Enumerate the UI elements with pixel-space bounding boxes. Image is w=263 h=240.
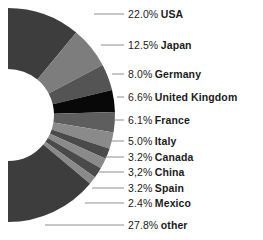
label-category: USA — [161, 8, 183, 20]
label-percent: 8.0% — [128, 68, 152, 80]
donut-slices — [8, 8, 115, 222]
label-category: Spain — [155, 182, 184, 194]
chart-label-france: 6.1%France — [128, 115, 190, 126]
label-percent: 3,2% — [128, 166, 152, 178]
label-percent: 6.6% — [128, 91, 152, 103]
label-percent: 27.8% — [128, 219, 158, 231]
chart-label-other: 27.8%other — [128, 220, 188, 231]
label-percent: 5.0% — [128, 135, 152, 147]
label-percent: 22.0% — [128, 8, 158, 20]
label-percent: 3.2% — [128, 182, 152, 194]
label-percent: 12.5% — [128, 39, 158, 51]
chart-label-china: 3,2%China — [128, 167, 185, 178]
label-category: other — [161, 219, 188, 231]
label-category: France — [155, 114, 190, 126]
label-percent: 2.4% — [128, 197, 152, 209]
label-category: Japan — [161, 39, 192, 51]
chart-label-germany: 8.0%Germany — [128, 69, 201, 80]
label-category: Italy — [155, 135, 177, 147]
label-category: United Kingdom — [155, 91, 237, 103]
label-category: China — [155, 166, 185, 178]
chart-label-italy: 5.0%Italy — [128, 136, 176, 147]
chart-label-usa: 22.0%USA — [128, 9, 183, 20]
label-category: Mexico — [155, 197, 191, 209]
label-percent: 6.1% — [128, 114, 152, 126]
chart-label-spain: 3.2%Spain — [128, 183, 184, 194]
label-percent: 3.2% — [128, 151, 152, 163]
donut-chart: 22.0%USA12.5%Japan8.0%Germany6.6%United … — [0, 0, 263, 240]
chart-label-united-kingdom: 6.6%United Kingdom — [128, 92, 237, 103]
chart-label-japan: 12.5%Japan — [128, 40, 192, 51]
label-category: Germany — [155, 68, 201, 80]
chart-label-mexico: 2.4%Mexico — [128, 198, 191, 209]
label-category: Canada — [155, 151, 194, 163]
chart-label-canada: 3.2%Canada — [128, 152, 193, 163]
